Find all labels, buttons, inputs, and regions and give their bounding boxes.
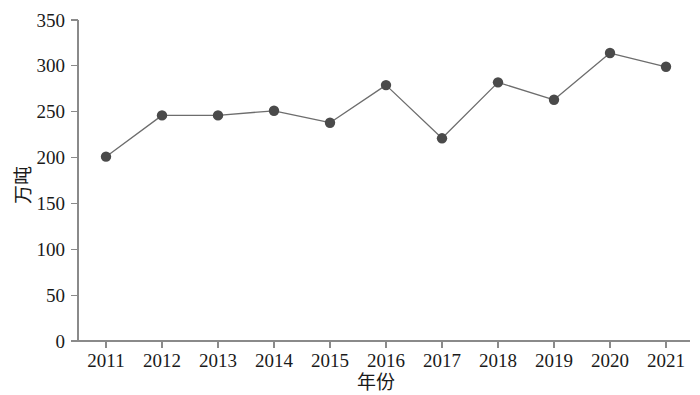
data-point — [213, 110, 223, 120]
data-point — [157, 110, 167, 120]
y-axis-tick-labels: 050100150200250300350 — [37, 10, 66, 352]
x-tick-label: 2018 — [479, 350, 517, 371]
y-tick-label: 200 — [37, 147, 66, 168]
data-point — [437, 133, 447, 143]
x-axis — [78, 341, 690, 348]
data-point — [661, 62, 671, 72]
data-series-markers — [101, 48, 671, 162]
y-tick-label: 100 — [37, 239, 66, 260]
x-tick-label: 2020 — [591, 350, 629, 371]
x-tick-label: 2017 — [423, 350, 461, 371]
x-axis-title: 年份 — [357, 372, 395, 393]
x-tick-label: 2019 — [535, 350, 573, 371]
x-tick-label: 2015 — [311, 350, 349, 371]
data-series-line — [106, 53, 666, 157]
x-tick-label: 2011 — [87, 350, 124, 371]
data-point — [269, 106, 279, 116]
x-tick-label: 2012 — [143, 350, 181, 371]
y-axis — [71, 20, 78, 341]
y-tick-label: 0 — [56, 331, 66, 352]
y-tick-label: 50 — [46, 285, 65, 306]
x-axis-tick-labels: 2011201220132014201520162017201820192020… — [87, 350, 685, 371]
data-point — [605, 48, 615, 58]
x-tick-label: 2021 — [647, 350, 685, 371]
x-tick-label: 2016 — [367, 350, 405, 371]
data-point — [101, 151, 111, 161]
y-axis-title: 万吨 — [13, 166, 34, 204]
chart-canvas: 050100150200250300350 201120122013201420… — [0, 0, 700, 395]
data-point — [493, 77, 503, 87]
y-tick-label: 300 — [37, 55, 66, 76]
data-point — [325, 118, 335, 128]
x-tick-label: 2013 — [199, 350, 237, 371]
x-tick-label: 2014 — [255, 350, 294, 371]
y-tick-label: 350 — [37, 10, 66, 31]
data-point — [549, 95, 559, 105]
y-axis-tick-marks — [71, 20, 78, 341]
line-chart: 050100150200250300350 201120122013201420… — [0, 0, 700, 395]
x-axis-tick-marks — [106, 341, 666, 348]
y-tick-label: 250 — [37, 101, 66, 122]
y-tick-label: 150 — [37, 193, 66, 214]
data-point — [381, 80, 391, 90]
